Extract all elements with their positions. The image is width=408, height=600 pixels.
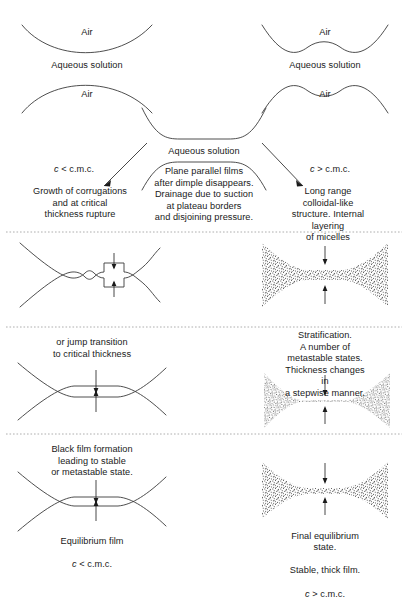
- condition-operator: <: [61, 164, 66, 174]
- row1-left-air-lower-label: Air: [81, 89, 92, 101]
- branch-right-caption: Long range colloidal-like structure. Int…: [288, 186, 368, 244]
- row1-left-air-upper-label: Air: [81, 27, 92, 39]
- condition-cmc: c.m.c.: [69, 164, 94, 174]
- branch-center-aqueous-label: Aqueous solution: [168, 146, 239, 158]
- branch-left-caption: Growth of corrugations and at critical t…: [33, 186, 127, 221]
- row4-right-final-film: [262, 462, 388, 519]
- row3-right-caption: Stratification. A number of metastable s…: [284, 330, 367, 400]
- row1-left-aqueous-label: Aqueous solution: [51, 60, 122, 72]
- branch-center-caption: Plane parallel films after dimple disapp…: [154, 166, 253, 224]
- row3-left-film: [18, 363, 166, 420]
- equilibrium-film-label: Equilibrium film: [60, 536, 123, 546]
- row4-right-caption: Final equilibrium state. Stable, thick f…: [284, 519, 367, 600]
- row1-right-air-lower-label: Air: [319, 89, 330, 101]
- condition-variable-c: c: [54, 164, 59, 174]
- row1-right-aqueous-label: Aqueous solution: [289, 60, 360, 72]
- condition-cmc: c.m.c.: [87, 559, 112, 569]
- row2-left-corrugated-film: [20, 243, 160, 307]
- row1-right-air-upper-label: Air: [319, 27, 330, 39]
- row2-right-stippled-film: [262, 243, 388, 307]
- row4-left-caption-bottom: Equilibrium film c < c.m.c.: [60, 524, 123, 570]
- final-state-line2: Stable, thick film.: [290, 565, 360, 575]
- condition-cmc: c.m.c.: [320, 589, 345, 599]
- branch-left-condition: c < c.m.c.: [54, 152, 94, 175]
- branch-right-condition: c > c.m.c.: [310, 152, 350, 175]
- branch-arrow-left: [104, 143, 147, 187]
- condition-variable-c: c: [310, 164, 315, 174]
- row4-left-caption-top: Black film formation leading to stable o…: [51, 444, 133, 479]
- branch-arrow-right: [262, 143, 303, 187]
- row4-left-equilibrium-film: [18, 472, 166, 531]
- row3-left-caption: or jump transition to critical thickness: [53, 337, 131, 360]
- final-state-line1: Final equilibrium state.: [291, 531, 359, 553]
- condition-cmc: c.m.c.: [325, 164, 350, 174]
- condition-operator: >: [317, 164, 322, 174]
